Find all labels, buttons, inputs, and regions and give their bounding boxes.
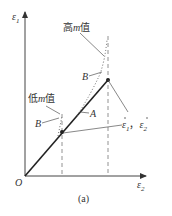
rate-leader	[63, 125, 122, 133]
b-lower-leader	[42, 118, 59, 123]
a-leader	[80, 112, 89, 113]
b-upper-label: B	[82, 71, 88, 82]
high-m-label: 高m值	[63, 21, 90, 33]
x-axis-label: ε2	[137, 179, 145, 193]
rate-dot-1	[124, 117, 125, 118]
b-upper-leader	[89, 72, 102, 76]
high-m-leader	[80, 33, 104, 56]
strain-diagram: ε1 ε2 O 高m值 低m值 B B A ε1，ε2 (a)	[0, 0, 172, 216]
y-axis-label: ε1	[12, 11, 19, 25]
low-m-leader	[46, 106, 60, 114]
strain-rate-label: ε1，ε2	[122, 119, 147, 133]
figure-caption: (a)	[78, 193, 89, 205]
a-label: A	[89, 108, 97, 119]
low-m-point	[60, 130, 64, 134]
rate-dot-2	[146, 117, 147, 118]
low-m-label: 低m值	[28, 92, 55, 104]
rate-leader-upper	[108, 80, 128, 112]
b-lower-label: B	[35, 118, 41, 129]
origin-label: O	[15, 177, 22, 188]
